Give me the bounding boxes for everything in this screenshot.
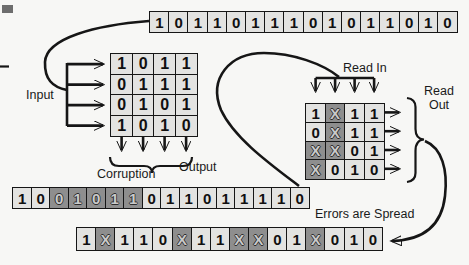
bit-cell: 1 [245, 11, 266, 33]
write-matrix: 1011011101011010 [110, 53, 198, 137]
matrix-row: 1X11 [305, 103, 385, 124]
bit-cell: 1 [114, 227, 135, 251]
bit-cell: 1 [149, 11, 170, 33]
arrows-overlay [0, 0, 469, 265]
bit-cell: 1 [344, 122, 365, 143]
original-bitstream-row: 1011011101011010 [149, 11, 458, 33]
read-matrix: 1X110X11XX01X010 [305, 103, 385, 180]
corrupted-bit-cell: X [325, 122, 346, 143]
bit-cell: 0 [142, 187, 162, 209]
bit-cell: 0 [110, 74, 133, 96]
bit-cell: 0 [153, 94, 176, 116]
bit-cell: 1 [12, 187, 32, 209]
bit-cell: 0 [437, 11, 458, 33]
corrupted-bit-cell: X [229, 227, 250, 251]
bit-cell: 0 [267, 227, 288, 251]
read-out-label: Read Out [413, 85, 465, 112]
bit-cell: 0 [152, 227, 173, 251]
errors-are-spread-label: Errors are Spread [315, 207, 414, 221]
bit-cell: 1 [253, 187, 273, 209]
bit-cell: 1 [344, 103, 365, 124]
bit-cell: 1 [153, 74, 176, 96]
bit-cell: 1 [132, 94, 155, 116]
bit-cell: 1 [179, 187, 199, 209]
bit-cell: 0 [31, 187, 51, 209]
bit-cell: 0 [290, 187, 310, 209]
bit-cell: 1 [264, 11, 285, 33]
output-label: Output [179, 160, 217, 174]
corrupted-bit-cell: 1 [105, 187, 125, 209]
bit-cell: 0 [197, 187, 217, 209]
bit-cell: 0 [364, 159, 385, 180]
bit-cell: 0 [168, 11, 189, 33]
bit-cell: 1 [175, 53, 198, 75]
corrupted-bit-cell: X [305, 159, 326, 180]
spread-errors-row: 1X110X11XX01X010 [76, 227, 383, 251]
matrix-row: 0101 [110, 94, 198, 116]
bit-cell: 0 [110, 94, 133, 116]
corrupted-bit-cell: X [95, 227, 116, 251]
bit-cell: 1 [191, 227, 212, 251]
corrupted-bit-cell: X [172, 227, 193, 251]
bit-cell: 1 [286, 227, 307, 251]
bit-cell: 1 [364, 103, 385, 124]
corrupted-bit-cell: X [248, 227, 269, 251]
bit-cell: 1 [234, 187, 254, 209]
corrupted-bit-cell: 0 [86, 187, 106, 209]
matrix-row: 1011 [110, 53, 198, 75]
corrupted-bit-cell: X [305, 141, 326, 162]
bit-cell: 1 [110, 115, 133, 137]
bit-cell: 1 [344, 227, 365, 251]
corrupted-bit-cell: 0 [49, 187, 69, 209]
matrix-row: 0X11 [305, 122, 385, 143]
bit-cell: 0 [175, 115, 198, 137]
bit-cell: 1 [305, 103, 326, 124]
bit-cell: 0 [305, 122, 326, 143]
page-corner-mark [2, 5, 13, 13]
bit-cell: 1 [187, 11, 208, 33]
matrix-row: 0111 [110, 74, 198, 96]
corruption-label: Corruption [97, 167, 155, 181]
input-label: Input [26, 88, 54, 102]
read-in-label: Read In [343, 61, 387, 75]
bit-cell: 0 [344, 141, 365, 162]
bit-cell: 0 [399, 11, 420, 33]
bit-cell: 1 [210, 227, 231, 251]
bit-cell: 1 [110, 53, 133, 75]
bit-cell: 0 [303, 11, 324, 33]
bit-cell: 1 [344, 159, 365, 180]
bit-cell: 1 [76, 227, 97, 251]
bit-cell: 0 [226, 11, 247, 33]
interleaving-diagram: 1011011101011010 1001011011011110 1X110X… [0, 0, 469, 265]
bit-cell: 1 [283, 11, 304, 33]
bit-cell: 1 [418, 11, 439, 33]
bit-cell: 1 [216, 187, 236, 209]
bit-cell: 1 [271, 187, 291, 209]
bit-cell: 1 [364, 141, 385, 162]
curve-readout-to-spread [392, 141, 446, 241]
bit-cell: 0 [363, 227, 384, 251]
bit-cell: 1 [207, 11, 228, 33]
bit-cell: 1 [175, 74, 198, 96]
corrupted-bit-cell: 1 [123, 187, 143, 209]
matrix-row: X010 [305, 159, 385, 180]
corrupted-bit-cell: 1 [68, 187, 88, 209]
matrix-row: 1010 [110, 115, 198, 137]
bit-cell: 0 [132, 115, 155, 137]
bit-cell: 1 [364, 122, 385, 143]
bit-cell: 1 [360, 11, 381, 33]
bit-cell: 1 [322, 11, 343, 33]
bit-cell: 1 [132, 74, 155, 96]
bit-cell: 0 [341, 11, 362, 33]
bit-cell: 1 [153, 53, 176, 75]
matrix-row: XX01 [305, 141, 385, 162]
bit-cell: 1 [175, 94, 198, 116]
bit-cell: 0 [324, 227, 345, 251]
bit-cell: 0 [132, 53, 155, 75]
corrupted-bit-cell: X [305, 227, 326, 251]
corrupted-bit-cell: X [325, 103, 346, 124]
corrupted-bit-cell: X [325, 141, 346, 162]
bit-cell: 0 [325, 159, 346, 180]
bit-cell: 1 [379, 11, 400, 33]
bit-cell: 1 [153, 115, 176, 137]
